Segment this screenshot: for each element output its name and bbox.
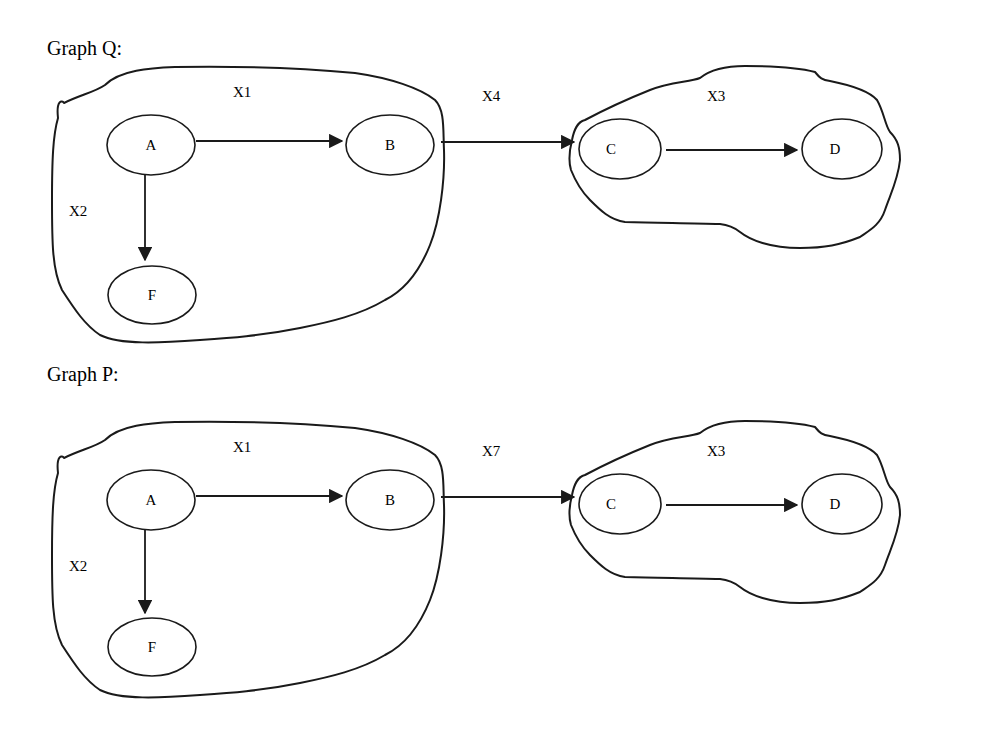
svg-text:B: B — [385, 137, 395, 153]
edge-a-f-label: X2 — [69, 203, 87, 219]
node-b-label: B — [385, 492, 395, 508]
node-b: B — [346, 115, 434, 175]
region-x3-label: X3 — [707, 443, 725, 459]
node-f-label: F — [148, 639, 156, 655]
node-a-label: A — [146, 492, 157, 508]
region-x1-label: X1 — [233, 439, 251, 455]
node-c — [579, 474, 661, 534]
svg-text:D: D — [830, 141, 841, 157]
svg-text:A: A — [146, 137, 157, 153]
graph-q: Graph Q: X1 X2 X3 X4 A B F C — [47, 37, 900, 342]
node-d-label: D — [830, 496, 841, 512]
svg-text:F: F — [148, 287, 156, 303]
node-a: A — [107, 115, 195, 175]
node-d: D — [802, 119, 882, 179]
svg-text:C: C — [606, 141, 616, 157]
node-f: F — [108, 266, 196, 324]
node-c-label: C — [606, 496, 616, 512]
node-d — [802, 474, 882, 534]
graph-q-title: Graph Q: — [47, 37, 122, 60]
edge-a-f-label: X2 — [69, 558, 87, 574]
edge-b-c-label: X4 — [482, 88, 501, 104]
diagram-canvas: Graph Q: X1 X2 X3 X4 A B F C — [0, 0, 988, 729]
graph-p: Graph P: — [47, 363, 900, 697]
edge-b-c-label: X7 — [482, 443, 501, 459]
graph-p-title: Graph P: — [47, 363, 119, 386]
region-x1-label: X1 — [233, 84, 251, 100]
node-c: C — [579, 119, 661, 179]
region-x3-label: X3 — [707, 88, 725, 104]
